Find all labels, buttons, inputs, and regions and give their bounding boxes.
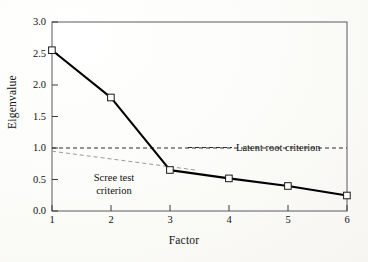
y-tick-label: 2.5 bbox=[12, 48, 46, 59]
data-point-marker bbox=[167, 167, 174, 174]
x-tick-label: 2 bbox=[99, 214, 123, 225]
scree-test-criterion-label: Scree test criterion bbox=[62, 171, 166, 197]
x-tick-label: 3 bbox=[158, 214, 182, 225]
x-tick-label: 1 bbox=[40, 214, 64, 225]
scree-test-criterion-line bbox=[52, 151, 196, 170]
data-point-marker bbox=[108, 94, 115, 101]
y-tick-label: 1.0 bbox=[12, 142, 46, 153]
data-point-marker bbox=[49, 47, 56, 54]
x-axis-ticks bbox=[52, 205, 347, 211]
y-tick-label: 0.5 bbox=[12, 174, 46, 185]
data-point-marker bbox=[285, 183, 292, 190]
scree-test-criterion-label-line1: Scree test bbox=[62, 171, 166, 184]
latent-root-criterion-label: Latent root criterion bbox=[236, 141, 321, 154]
x-tick-label: 6 bbox=[335, 214, 359, 225]
y-tick-label: 3.0 bbox=[12, 16, 46, 27]
y-axis-title: Eigenvalue bbox=[6, 69, 18, 135]
x-tick-label: 4 bbox=[217, 214, 241, 225]
data-point-marker bbox=[344, 192, 351, 199]
x-tick-label: 5 bbox=[276, 214, 300, 225]
scree-plot-figure: 3.0 2.5 2.0 1.5 1.0 0.5 0.0 1 2 3 4 5 6 … bbox=[0, 0, 368, 262]
scree-test-criterion-label-line2: criterion bbox=[62, 184, 166, 197]
x-axis-title: Factor bbox=[0, 234, 368, 246]
data-point-marker bbox=[226, 175, 233, 182]
